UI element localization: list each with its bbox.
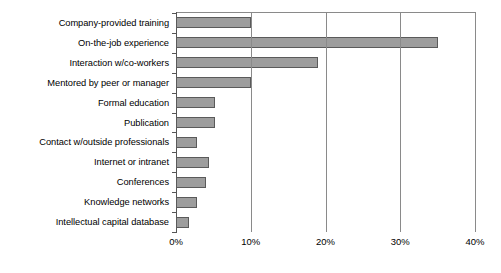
x-axis-tick-labels: 0%10%20%30%40% — [0, 236, 501, 252]
bar — [176, 157, 209, 168]
x-tick-label: 40% — [455, 236, 495, 248]
bar — [176, 137, 197, 148]
category-label: On-the-job experience — [0, 38, 169, 48]
y-axis-tick — [172, 192, 176, 193]
x-tick-label: 10% — [231, 236, 271, 248]
y-axis-tick — [172, 53, 176, 54]
bar — [176, 77, 251, 88]
gridline-30 — [400, 13, 401, 232]
x-tick-label: 30% — [380, 236, 420, 248]
category-label: Publication — [0, 118, 169, 128]
bar — [176, 117, 215, 128]
y-axis-tick — [172, 93, 176, 94]
y-axis-tick — [172, 33, 176, 34]
category-axis-labels: Company-provided trainingOn-the-job expe… — [0, 13, 169, 232]
bar — [176, 217, 189, 228]
category-label: Mentored by peer or manager — [0, 78, 169, 88]
gridline-10 — [251, 13, 252, 232]
y-axis-tick — [172, 212, 176, 213]
y-axis-tick — [172, 172, 176, 173]
y-axis-tick — [172, 132, 176, 133]
bar — [176, 17, 251, 28]
category-label: Internet or intranet — [0, 157, 169, 167]
x-tick-label: 0% — [156, 236, 196, 248]
category-label: Contact w/outside professionals — [0, 137, 169, 147]
bar — [176, 97, 215, 108]
category-label: Intellectual capital database — [0, 217, 169, 227]
bar-chart: Company-provided trainingOn-the-job expe… — [0, 0, 501, 273]
y-axis-tick — [172, 232, 176, 233]
y-axis-tick — [172, 113, 176, 114]
category-label: Interaction w/co-workers — [0, 58, 169, 68]
y-axis-tick — [172, 152, 176, 153]
category-label: Knowledge networks — [0, 197, 169, 207]
bar — [176, 177, 206, 188]
y-axis-tick — [172, 73, 176, 74]
category-label: Company-provided training — [0, 18, 169, 28]
gridline-40 — [475, 13, 476, 232]
gridline-20 — [326, 13, 327, 232]
category-label: Conferences — [0, 177, 169, 187]
x-tick-label: 20% — [306, 236, 346, 248]
bar — [176, 37, 438, 48]
category-label: Formal education — [0, 98, 169, 108]
bar — [176, 197, 197, 208]
y-axis-tick — [172, 13, 176, 14]
bar — [176, 57, 318, 68]
